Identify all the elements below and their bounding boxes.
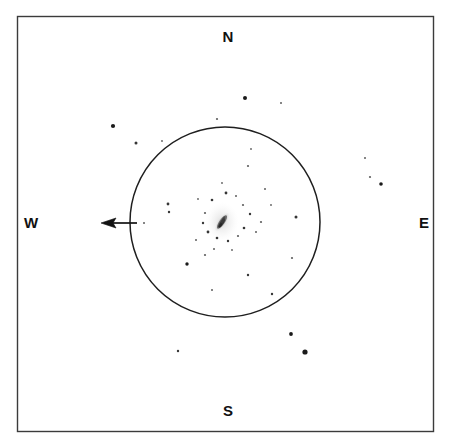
star-marker [260,221,262,223]
star-marker [289,332,293,336]
star-marker [249,213,251,215]
star-marker [225,192,228,195]
star-marker [243,227,246,230]
star-marker [213,248,215,250]
compass-label-east: E [409,215,439,230]
star-marker [135,142,138,145]
star-marker [291,257,293,259]
star-marker [379,182,383,186]
star-marker [207,231,210,234]
star-marker [271,293,273,295]
star-marker [227,240,229,242]
star-marker [197,198,199,200]
star-marker [280,102,282,104]
star-marker [167,203,170,206]
star-marker [247,165,249,167]
compass-label-north: N [213,29,243,44]
star-marker [221,182,223,184]
star-marker [216,118,218,120]
star-marker [250,148,252,150]
star-marker [295,216,298,219]
star-marker [204,212,206,214]
star-marker [302,349,307,354]
star-marker [177,350,179,352]
finder-chart-canvas [0,0,456,444]
star-marker [168,211,170,213]
star-marker [161,140,163,142]
star-marker [237,235,239,237]
star-marker [242,204,244,206]
star-marker [185,262,188,265]
star-marker [264,188,266,190]
star-marker [202,222,204,224]
star-marker [111,124,115,128]
star-marker [247,274,249,276]
compass-label-south: S [213,403,243,418]
star-marker [211,199,214,202]
star-marker [270,204,272,206]
star-marker [235,195,237,197]
star-marker [195,239,197,241]
star-marker [243,96,247,100]
star-marker [204,254,206,256]
finder-chart: N S W E [0,0,456,444]
star-marker [255,231,257,233]
star-marker [216,237,219,240]
star-marker [364,157,366,159]
star-marker [231,249,233,251]
star-marker [143,222,145,224]
star-marker [211,289,213,291]
star-marker [369,176,371,178]
compass-label-west: W [16,215,46,230]
